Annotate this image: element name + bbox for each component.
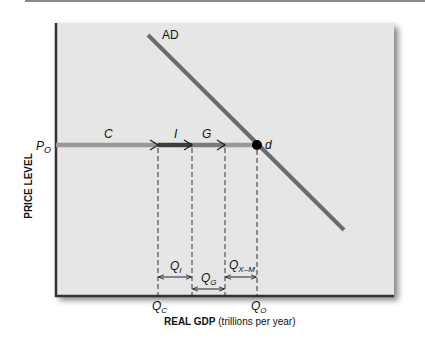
y-axis-label: PRICE LEVEL: [23, 153, 34, 219]
c-label: C: [104, 127, 113, 141]
point-d-label: d: [265, 138, 272, 152]
qc-label: QC: [152, 299, 167, 315]
ad-label: AD: [162, 28, 179, 42]
price-po-label: PO: [36, 139, 51, 155]
g-label: G: [202, 127, 211, 141]
aggregate-demand-diagram: AD C I G d PO PRICE LEVEL QI QG QX–M QC …: [0, 0, 425, 340]
x-axis-label: REAL GDP (trillions per year): [164, 316, 296, 327]
qo-label: QO: [251, 299, 267, 315]
equilibrium-point-d: [252, 140, 262, 150]
